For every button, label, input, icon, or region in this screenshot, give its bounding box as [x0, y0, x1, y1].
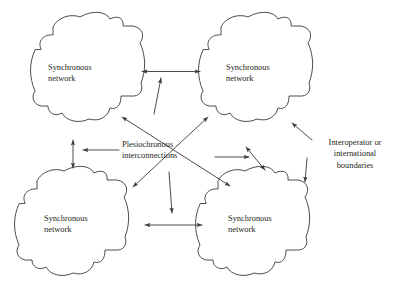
right-label-line3: boundaries [314, 160, 396, 171]
network-diagram: Synchronous network Synchronous network … [0, 0, 399, 307]
cloud-label-bottom-right-line1: Synchronous [228, 213, 272, 224]
cloud-label-top-left: Synchronous network [48, 62, 92, 85]
cloud-label-top-right: Synchronous network [226, 62, 270, 85]
cloud-label-bottom-right-line2: network [228, 224, 272, 235]
center-label-line1: Plesiochronous [122, 139, 177, 150]
right-label-line2: international [314, 148, 396, 159]
cloud-label-top-right-line2: network [226, 73, 270, 84]
right-label-line1: Interoperator or [314, 137, 396, 148]
cloud-label-bottom-left: Synchronous network [44, 213, 88, 236]
pointer-boundary-lower [305, 158, 307, 182]
plesiochronous-interconnections-label: Plesiochronous interconnections [122, 139, 177, 162]
pointer-to-top-horizontal [154, 78, 161, 114]
cloud-label-bottom-right: Synchronous network [228, 213, 272, 236]
cloud-label-top-right-line1: Synchronous [226, 62, 270, 73]
cloud-label-top-left-line1: Synchronous [48, 62, 92, 73]
cloud-label-top-left-line2: network [48, 73, 92, 84]
cloud-label-bottom-left-line1: Synchronous [44, 213, 88, 224]
center-label-line2: interconnections [122, 150, 177, 161]
cloud-label-bottom-left-line2: network [44, 224, 88, 235]
pointer-to-bottom-horizontal [169, 172, 172, 213]
interoperator-boundaries-label: Interoperator or international boundarie… [314, 137, 396, 171]
pointer-boundary-upper [292, 123, 312, 140]
